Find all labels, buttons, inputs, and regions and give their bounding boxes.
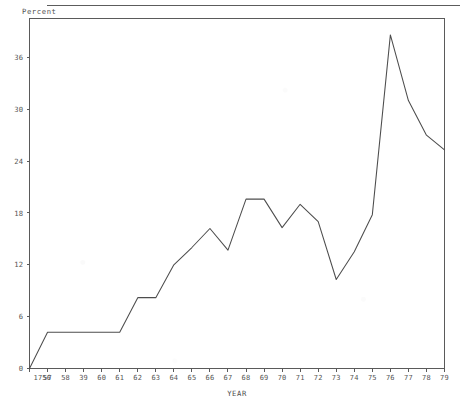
y-tick-label: 0 [19,364,24,373]
y-tick-label: 30 [14,105,23,114]
x-axis: 1756575839606162636465666768697071727374… [30,369,449,383]
x-tick-label: 60 [97,374,106,382]
x-tick-label: 67 [224,374,233,382]
y-tick-label: 6 [19,312,24,321]
y-axis-title: Percent [22,7,57,16]
x-tick-label: 64 [169,374,178,382]
chart-container: Percent 061218243036 1756575839606162636… [0,0,460,410]
y-tick-label: 18 [14,209,23,218]
x-tick-label: 77 [404,374,413,382]
x-tick-label: 71 [296,374,305,382]
x-tick-label: 76 [386,374,395,382]
x-tick-label: 69 [260,374,269,382]
data-series-line [30,35,445,369]
y-tick-label: 36 [14,53,23,62]
x-tick-label: 72 [314,374,323,382]
x-tick-label: 74 [350,374,359,382]
plot-frame [30,19,445,369]
x-tick-label: 78 [422,374,431,382]
x-tick-label: 58 [61,374,70,382]
y-tick-label: 12 [14,260,23,269]
x-tick-label: 57 [43,374,52,382]
x-tick-label: 63 [151,374,160,382]
y-tick-label: 24 [14,157,23,166]
x-tick-label: 39 [79,374,88,382]
x-tick-label: 62 [133,374,142,382]
x-tick-label: 66 [206,374,215,382]
y-axis: 061218243036 [14,53,29,373]
x-tick-label: 75 [368,374,377,382]
x-tick-label: 70 [278,374,287,382]
x-axis-title: YEAR [227,389,247,398]
x-tick-label: 73 [332,374,341,382]
percent-by-year-line-chart: Percent 061218243036 1756575839606162636… [0,0,460,410]
x-tick-label: 68 [242,374,251,382]
x-tick-label: 65 [187,374,196,382]
x-tick-label: 79 [440,374,449,382]
x-tick-label: 61 [115,374,124,382]
